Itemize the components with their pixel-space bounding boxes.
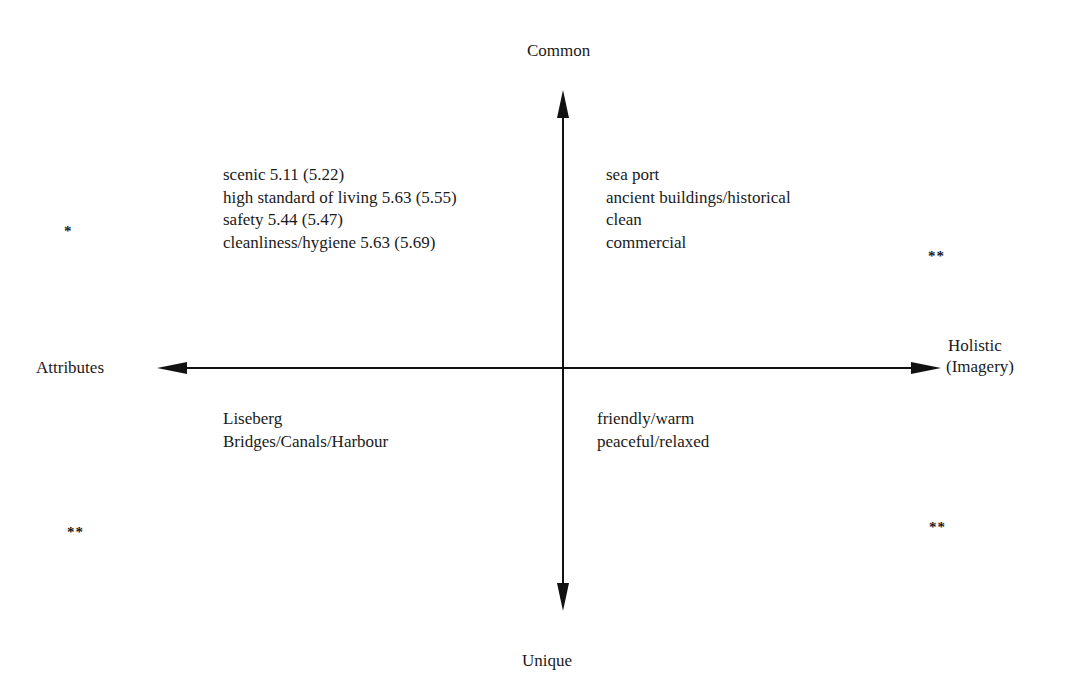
quadrant-top-right: sea port ancient buildings/historical cl… [606,164,791,254]
quadrant-top-left: scenic 5.11 (5.22) high standard of livi… [223,164,457,254]
list-item: high standard of living 5.63 (5.55) [223,187,457,210]
marker-bottom-left: ** [67,524,84,540]
arrow-down-icon [557,583,569,611]
destination-image-diagram: Common Unique Attributes Holistic (Image… [0,0,1067,696]
list-item: commercial [606,232,791,255]
list-item: peaceful/relaxed [597,431,709,454]
axis-label-common: Common [527,40,590,62]
arrow-right-icon [911,362,941,374]
quadrant-bottom-left: Liseberg Bridges/Canals/Harbour [223,408,388,453]
list-item: cleanliness/hygiene 5.63 (5.69) [223,232,457,255]
axis-label-holistic-line-2: (Imagery) [946,356,1014,377]
list-item: sea port [606,164,791,187]
axis-label-holistic: Holistic (Imagery) [946,335,1014,377]
marker-top-right: ** [928,248,945,264]
list-item: friendly/warm [597,408,709,431]
axes [0,0,1067,696]
axis-label-attributes: Attributes [36,357,104,379]
list-item: safety 5.44 (5.47) [223,209,457,232]
arrow-up-icon [557,90,569,118]
axis-label-unique: Unique [522,650,572,672]
list-item: scenic 5.11 (5.22) [223,164,457,187]
arrow-left-icon [157,362,187,374]
list-item: clean [606,209,791,232]
list-item: ancient buildings/historical [606,187,791,210]
quadrant-bottom-right: friendly/warm peaceful/relaxed [597,408,709,453]
marker-bottom-right: ** [929,519,946,535]
list-item: Bridges/Canals/Harbour [223,431,388,454]
marker-top-left: * [64,223,73,239]
axis-label-holistic-line-1: Holistic [946,335,1014,356]
list-item: Liseberg [223,408,388,431]
